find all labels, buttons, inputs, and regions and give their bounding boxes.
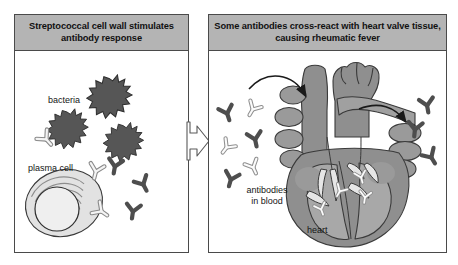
label-bacteria: bacteria — [48, 95, 80, 106]
antibody-light — [218, 138, 236, 156]
diagram-stage: Streptococcal cell wall stimulates antib… — [0, 0, 458, 265]
antibody-dark — [107, 158, 123, 174]
panel-right-canvas: antibodies in blood heart — [209, 51, 446, 252]
antibody-dark — [218, 105, 236, 123]
antibody-dark — [247, 131, 264, 148]
bacterium — [103, 122, 143, 161]
antibody-light — [245, 159, 262, 176]
panel-cross-reaction: Some antibodies cross-react with heart v… — [208, 14, 447, 253]
label-plasma-cell: plasma cell — [28, 163, 73, 174]
antibody-dark — [419, 97, 435, 113]
panel-right-title: Some antibodies cross-react with heart v… — [209, 15, 446, 51]
label-heart: heart — [307, 225, 328, 236]
bacterium — [46, 109, 88, 149]
antibody-dark — [134, 175, 153, 194]
panel-left-title: Streptococcal cell wall stimulates antib… — [15, 15, 188, 51]
antibody-dark — [422, 148, 441, 167]
antibody-dark — [125, 204, 141, 220]
heart-illustration — [275, 63, 421, 248]
panel-left-canvas: bacteria plasma cell — [15, 51, 188, 252]
panel-streptococcal-response: Streptococcal cell wall stimulates antib… — [14, 14, 189, 253]
bacterium — [87, 75, 132, 118]
label-antibodies-in-blood: antibodies in blood — [234, 185, 300, 208]
antibody-light — [244, 101, 262, 119]
